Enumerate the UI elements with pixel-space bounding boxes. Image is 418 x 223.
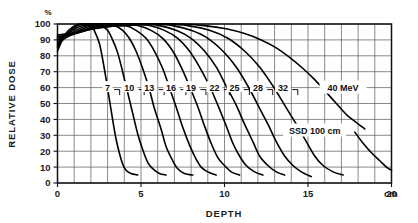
y-axis-tick-label: 20 [40,146,51,157]
percent-symbol: % [44,8,51,17]
curve-label-13: 13 [144,83,154,93]
chart-canvas: 7101316192225283240 SSD 100 cm40 MeV 010… [0,0,418,223]
x-axis-tick-label: 0 [55,188,60,199]
depth-dose-chart: 7101316192225283240 SSD 100 cm40 MeV 010… [0,0,418,223]
annotation-text: 40 MeV [328,83,359,93]
y-axis-tick-label: 70 [40,66,51,77]
y-axis-tick-label: 40 [40,114,51,125]
y-axis-tick-label: 60 [40,82,51,93]
y-axis-title: RELATIVE DOSE [6,60,17,148]
curve-label-22: 22 [209,83,219,93]
y-axis-tick-label: 30 [40,130,51,141]
chart-background [0,0,418,223]
curve-label-7: 7 [105,83,110,93]
x-axis-tick-label: 10 [219,188,230,199]
curve-label-32: 32 [278,83,288,93]
curve-label-28: 28 [253,83,263,93]
x-axis-unit-label: cm [384,188,398,199]
curve-label-10: 10 [124,83,134,93]
y-axis-tick-label: 90 [40,34,51,45]
curve-label-19: 19 [186,83,196,93]
annotation-text: SSD 100 cm [289,126,341,136]
grid-layer [58,24,392,183]
x-axis-title: DEPTH [206,208,243,219]
curve-label-16: 16 [166,83,176,93]
curve-label-25: 25 [230,83,240,93]
y-axis-tick-label: 50 [40,98,51,109]
y-axis-tick-label: 80 [40,50,51,61]
y-axis-tick-label: 0 [45,177,50,188]
x-axis-tick-label: 15 [303,188,314,199]
y-axis-tick-label: 100 [35,18,51,29]
y-axis-tick-label: 10 [40,162,51,173]
x-axis-tick-label: 5 [138,188,144,199]
